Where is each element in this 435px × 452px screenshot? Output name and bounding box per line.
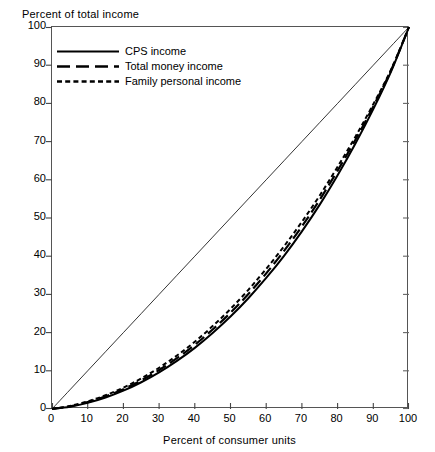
legend-swatch-long-dash-icon xyxy=(57,61,119,72)
x-axis-ticks xyxy=(53,403,409,409)
y-tick-label: 60 xyxy=(34,173,46,184)
y-tick-label: 10 xyxy=(34,364,46,375)
x-tick-label: 100 xyxy=(393,413,423,424)
legend-swatch-short-dash-icon xyxy=(57,76,119,87)
legend-item-family-personal-income: Family personal income xyxy=(57,74,241,89)
x-tick-label: 50 xyxy=(215,413,245,424)
y-axis-ticks-right xyxy=(403,28,409,409)
legend-item-cps-income: CPS income xyxy=(57,44,241,59)
y-tick-label: 90 xyxy=(34,58,46,69)
x-tick-label: 40 xyxy=(179,413,209,424)
y-tick-label: 0 xyxy=(40,402,46,413)
legend-swatch-solid-icon xyxy=(57,46,119,57)
x-tick-label: 80 xyxy=(322,413,352,424)
legend-label-cps-income: CPS income xyxy=(125,44,186,59)
legend-item-total-money-income: Total money income xyxy=(57,59,241,74)
x-tick-label: 70 xyxy=(286,413,316,424)
x-tick-label: 10 xyxy=(72,413,102,424)
legend-label-total-money-income: Total money income xyxy=(125,59,223,74)
legend-label-family-personal-income: Family personal income xyxy=(125,74,241,89)
x-tick-label: 20 xyxy=(107,413,137,424)
x-tick-label: 0 xyxy=(36,413,66,424)
x-tick-label: 30 xyxy=(143,413,173,424)
y-tick-label: 70 xyxy=(34,135,46,146)
y-tick-label: 50 xyxy=(34,211,46,222)
y-tick-label: 100 xyxy=(28,20,46,31)
y-tick-label: 20 xyxy=(34,326,46,337)
y-tick-label: 40 xyxy=(34,249,46,260)
y-tick-label: 30 xyxy=(34,287,46,298)
x-tick-label: 60 xyxy=(250,413,280,424)
y-tick-label: 80 xyxy=(34,96,46,107)
y-axis-ticks-left xyxy=(46,28,52,409)
chart-legend: CPS income Total money income Family per… xyxy=(57,44,241,89)
x-tick-label: 90 xyxy=(357,413,387,424)
x-axis-title-text: Percent of consumer units xyxy=(163,434,296,446)
x-axis-title: Percent of consumer units xyxy=(0,434,435,446)
lorenz-curve-chart: Percent of total income 0102030405060708… xyxy=(0,0,435,452)
